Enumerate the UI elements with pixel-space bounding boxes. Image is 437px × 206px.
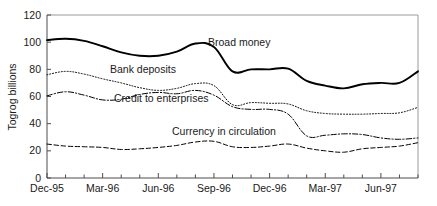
series-label-credit-to-enterprises: Credit to enterprises bbox=[114, 92, 209, 104]
x-tick-label: Mar-97 bbox=[309, 182, 342, 194]
x-tick-label: Sep-96 bbox=[197, 182, 231, 194]
x-tick-label: Dec-95 bbox=[30, 182, 64, 194]
y-tick-label: 20 bbox=[29, 144, 41, 156]
chart-container: 020406080100120 Dec-95Mar-96Jun-96Sep-96… bbox=[0, 0, 437, 206]
y-tick-label: 100 bbox=[23, 36, 41, 48]
y-tick-label: 60 bbox=[29, 90, 41, 102]
series-label-broad-money: Broad money bbox=[208, 36, 271, 48]
y-tick-label: 120 bbox=[23, 9, 41, 21]
x-tick-label: Mar-96 bbox=[86, 182, 119, 194]
line-chart: 020406080100120 Dec-95Mar-96Jun-96Sep-96… bbox=[0, 0, 437, 206]
series-label-currency-in-circulation: Currency in circulation bbox=[172, 125, 276, 137]
y-axis-title: Togrog billions bbox=[6, 63, 18, 130]
series-label-bank-deposits: Bank deposits bbox=[110, 63, 176, 75]
y-tick-label: 40 bbox=[29, 117, 41, 129]
x-tick-label: Jun-97 bbox=[365, 182, 397, 194]
y-tick-label: 80 bbox=[29, 63, 41, 75]
x-tick-label: Jun-96 bbox=[142, 182, 174, 194]
x-tick-label: Dec-96 bbox=[253, 182, 287, 194]
